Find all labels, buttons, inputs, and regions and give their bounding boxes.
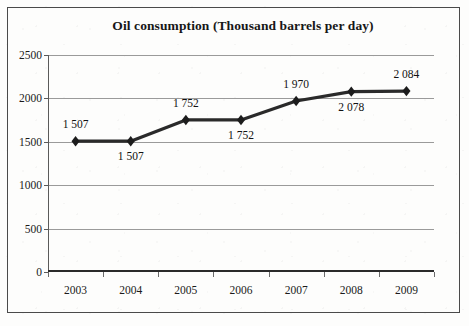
x-axis-tick-label: 2003 <box>48 284 104 296</box>
x-axis-tick-label: 2007 <box>268 284 324 296</box>
plot-area <box>48 55 434 272</box>
y-axis-tick-label: 500 <box>0 223 42 235</box>
data-point-marker <box>402 86 410 96</box>
x-tick-mark <box>103 272 104 277</box>
data-point-label: 1 752 <box>218 129 264 141</box>
x-tick-mark <box>434 272 435 277</box>
y-axis-tick-label: 2000 <box>0 92 42 104</box>
x-axis-tick-label: 2009 <box>378 284 434 296</box>
chart-title: Oil consumption (Thousand barrels per da… <box>48 18 438 34</box>
x-axis-tick-label: 2005 <box>158 284 214 296</box>
x-axis-tick-label: 2004 <box>103 284 159 296</box>
x-axis-tick-label: 2006 <box>213 284 269 296</box>
x-tick-mark <box>213 272 214 277</box>
data-point-marker <box>237 115 245 125</box>
data-point-label: 1 970 <box>273 78 319 90</box>
chart-page: Oil consumption (Thousand barrels per da… <box>0 0 469 326</box>
x-axis-tick-label: 2008 <box>323 284 379 296</box>
x-tick-mark <box>158 272 159 277</box>
y-axis-tick-label: 1500 <box>0 136 42 148</box>
data-point-marker <box>72 136 80 146</box>
y-axis-tick-label: 1000 <box>0 179 42 191</box>
data-point-label: 1 507 <box>53 118 99 130</box>
x-tick-mark <box>324 272 325 277</box>
data-point-label: 2 084 <box>383 68 429 80</box>
y-axis-labels: 05001000150020002500 <box>0 55 42 272</box>
x-tick-mark <box>379 272 380 277</box>
y-axis-tick-label: 2500 <box>0 49 42 61</box>
data-point-marker <box>127 136 135 146</box>
y-axis-tick-label: 0 <box>0 266 42 278</box>
data-point-marker <box>182 115 190 125</box>
x-tick-mark <box>269 272 270 277</box>
data-point-marker <box>292 96 300 106</box>
data-point-label: 1 507 <box>108 150 154 162</box>
series-line-oil-consumption <box>48 55 434 272</box>
x-tick-mark <box>48 272 49 277</box>
data-point-marker <box>347 86 355 96</box>
data-point-label: 2 078 <box>328 101 374 113</box>
data-point-label: 1 752 <box>163 97 209 109</box>
